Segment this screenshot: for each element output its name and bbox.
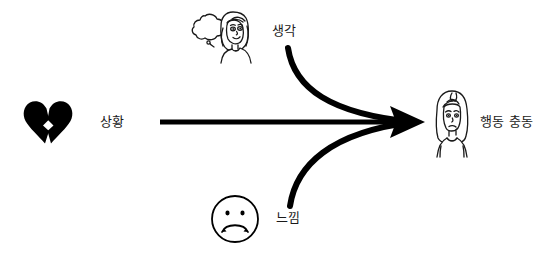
sad-face-outline	[212, 196, 258, 242]
node-label-feeling: 느낌	[276, 211, 300, 224]
arrow-group	[160, 48, 425, 206]
node-label-thought: 생각	[272, 24, 296, 37]
worried-woman-icon	[428, 88, 476, 158]
node-label-urge: 행동 충동	[480, 115, 533, 128]
node-label-situation: 상황	[100, 115, 124, 128]
sad-face-left-eye	[225, 211, 229, 216]
broken-heart-icon	[22, 98, 74, 148]
sad-face-icon	[209, 193, 261, 245]
thinking-woman-icon	[188, 2, 260, 64]
sad-face-right-eye	[240, 211, 244, 216]
